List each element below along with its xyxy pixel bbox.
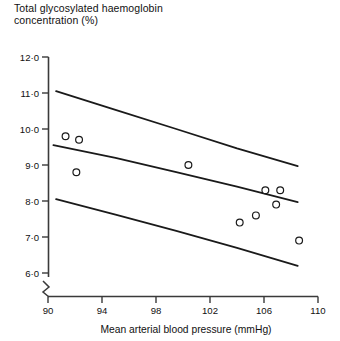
data-points xyxy=(62,133,302,244)
data-point xyxy=(236,219,243,226)
regression-line xyxy=(56,91,298,166)
x-tick-label: 106 xyxy=(256,305,272,316)
data-point xyxy=(277,187,284,194)
x-axis-ticks xyxy=(48,297,318,304)
y-axis-tick-labels: 12·0 11·0 10·0 9·0 8·0 7·0 6·0 xyxy=(20,52,39,279)
data-point xyxy=(76,136,83,143)
data-point xyxy=(185,162,192,169)
x-axis-title: Mean arterial blood pressure (mmHg) xyxy=(100,324,271,335)
x-tick-label: 98 xyxy=(151,305,162,316)
y-tick-label: 6·0 xyxy=(25,268,39,279)
axes xyxy=(43,57,318,297)
x-tick-label: 102 xyxy=(202,305,218,316)
data-point xyxy=(262,187,269,194)
data-point xyxy=(273,201,280,208)
axis-break-icon xyxy=(43,281,49,297)
y-tick-label: 10·0 xyxy=(20,124,39,135)
y-tick-label: 7·0 xyxy=(25,232,39,243)
regression-line xyxy=(56,199,298,266)
chart-figure: Total glycosylated haemoglobin concentra… xyxy=(0,0,340,341)
y-axis-ticks xyxy=(42,57,49,273)
y-tick-label: 12·0 xyxy=(20,52,39,63)
x-tick-label: 94 xyxy=(97,305,108,316)
data-point xyxy=(62,133,69,140)
scatter-plot-canvas: 12·0 11·0 10·0 9·0 8·0 7·0 6·0 90 94 98 … xyxy=(0,0,340,341)
x-axis-tick-labels: 90 94 98 102 106 110 xyxy=(43,305,326,316)
regression-line xyxy=(53,145,297,202)
y-tick-label: 9·0 xyxy=(25,160,39,171)
regression-lines xyxy=(53,91,297,266)
data-point xyxy=(296,237,303,244)
data-point xyxy=(73,169,80,176)
y-tick-label: 8·0 xyxy=(25,196,39,207)
data-point xyxy=(253,212,260,219)
x-tick-label: 90 xyxy=(43,305,54,316)
x-tick-label: 110 xyxy=(310,305,325,316)
y-tick-label: 11·0 xyxy=(21,88,40,99)
